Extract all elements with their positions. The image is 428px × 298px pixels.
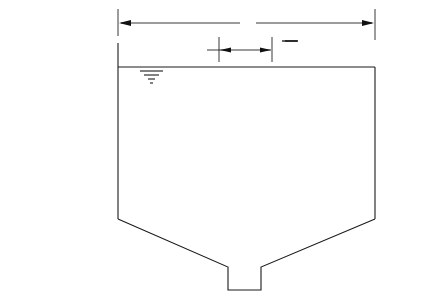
diameter-dimension (118, 9, 375, 40)
clarifier-diagram (0, 0, 428, 298)
tank-outline (118, 43, 375, 290)
clarifier-drawing (0, 0, 428, 298)
water-surface (118, 67, 380, 68)
water-surface-icon (140, 71, 163, 83)
baffle-diameter-dimension (207, 37, 272, 62)
